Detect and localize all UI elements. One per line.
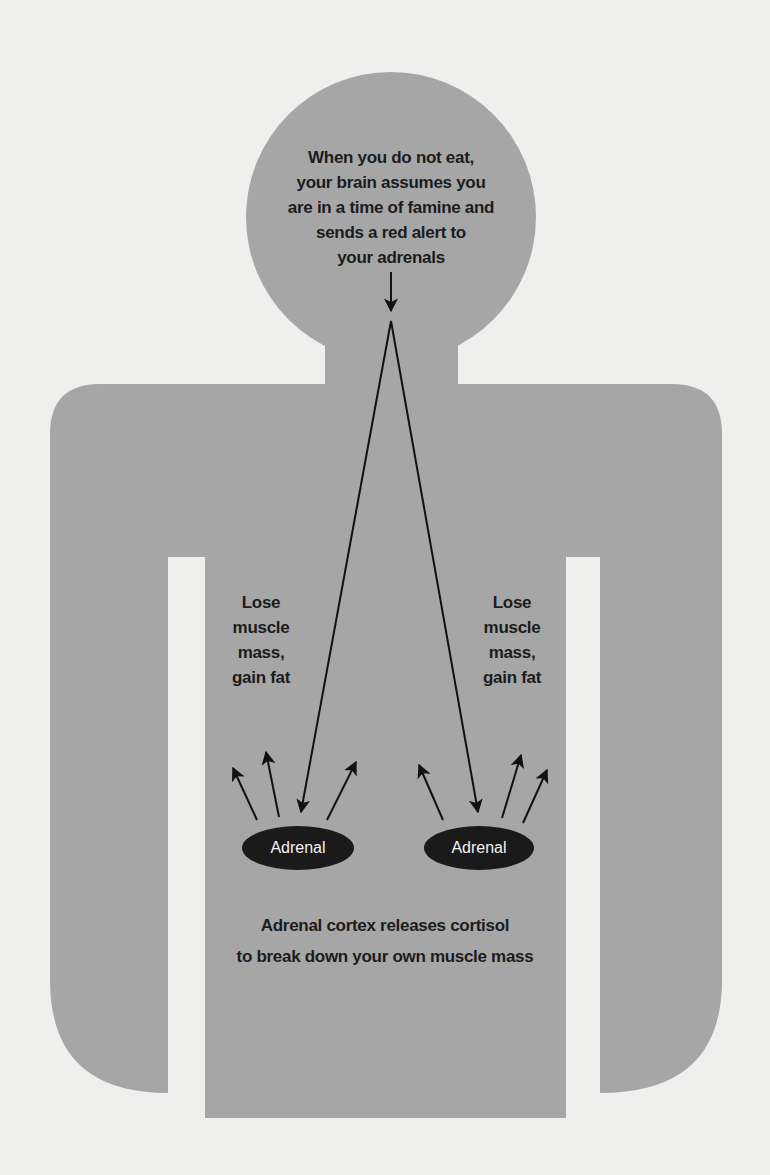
adrenal-left-label: Adrenal [242, 838, 354, 858]
right-effect-line: muscle [462, 615, 562, 640]
right-effect-line: gain fat [462, 665, 562, 690]
left-effect-line: mass, [211, 640, 311, 665]
head-text-line: sends a red alert to [270, 220, 512, 245]
head-text: When you do not eat, your brain assumes … [270, 145, 512, 270]
adrenal-right-label: Adrenal [423, 838, 535, 858]
cortisol-caption: Adrenal cortex releases cortisol to brea… [205, 910, 565, 972]
left-effect-line: gain fat [211, 665, 311, 690]
right-effect-text: Lose muscle mass, gain fat [462, 590, 562, 690]
caption-line: to break down your own muscle mass [205, 941, 565, 972]
left-effect-line: muscle [211, 615, 311, 640]
diagram-stage: When you do not eat, your brain assumes … [0, 0, 770, 1175]
head-text-line: When you do not eat, [270, 145, 512, 170]
head-text-line: your adrenals [270, 245, 512, 270]
left-effect-text: Lose muscle mass, gain fat [211, 590, 311, 690]
caption-line: Adrenal cortex releases cortisol [205, 910, 565, 941]
left-effect-line: Lose [211, 590, 311, 615]
head-text-line: are in a time of famine and [270, 195, 512, 220]
right-effect-line: Lose [462, 590, 562, 615]
right-effect-line: mass, [462, 640, 562, 665]
head-text-line: your brain assumes you [270, 170, 512, 195]
